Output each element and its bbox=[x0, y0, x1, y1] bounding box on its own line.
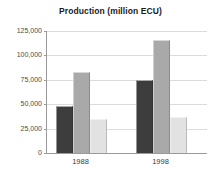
chart-title: Production (million ECU) bbox=[0, 6, 221, 16]
y-axis-tick-label: 25,000 bbox=[21, 125, 42, 132]
bar-face bbox=[170, 117, 187, 153]
y-axis-tick bbox=[44, 129, 47, 130]
y-axis-tick-label: 50,000 bbox=[21, 100, 42, 107]
y-axis-tick bbox=[44, 104, 47, 105]
bar bbox=[153, 40, 170, 153]
y-axis-tick-label: 125,000 bbox=[17, 27, 42, 34]
y-axis-tick bbox=[44, 153, 47, 154]
y-axis-tick-label: 0 bbox=[38, 149, 42, 156]
x-axis-tick-label: 1998 bbox=[125, 158, 196, 166]
bar bbox=[56, 106, 73, 153]
gridline bbox=[47, 55, 207, 56]
bar bbox=[170, 117, 187, 153]
bar-face bbox=[56, 106, 73, 153]
y-axis-tick-label: 100,000 bbox=[17, 51, 42, 58]
bar-face bbox=[73, 72, 90, 153]
gridline bbox=[47, 104, 207, 105]
plot-area bbox=[46, 31, 207, 154]
y-axis-tick bbox=[44, 31, 47, 32]
bar-face bbox=[90, 119, 107, 153]
y-axis-tick bbox=[44, 80, 47, 81]
gridline bbox=[47, 31, 207, 32]
y-axis-tick-label: 75,000 bbox=[21, 76, 42, 83]
bar bbox=[136, 80, 153, 153]
gridline bbox=[47, 80, 207, 81]
x-axis-tick-label: 1988 bbox=[45, 158, 116, 166]
bar-chart-figure: Production (million ECU) 025,00050,00075… bbox=[0, 0, 221, 187]
bar-face bbox=[136, 80, 153, 153]
y-axis-tick bbox=[44, 55, 47, 56]
bar bbox=[73, 72, 90, 153]
bar bbox=[90, 119, 107, 153]
bar-face bbox=[153, 40, 170, 153]
